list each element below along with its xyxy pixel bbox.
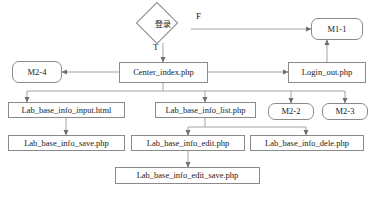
node-info-input-label: Lab_base_info_input.html	[22, 106, 112, 115]
node-m2-2[interactable]: M2-2	[268, 103, 314, 120]
node-info-edit-save[interactable]: Lab_base_info_edit_save.php	[115, 167, 260, 184]
node-m2-2-label: M2-2	[282, 107, 301, 116]
node-info-edit-label: Lab_base_info_edit.php	[147, 139, 229, 148]
login-decision-label: 登录	[142, 8, 184, 38]
node-m2-4[interactable]: M2-4	[12, 61, 62, 83]
node-m1-1[interactable]: M1-1	[311, 18, 363, 40]
edge-label-true: T	[153, 42, 159, 52]
node-info-save-label: Lab_base_info_save.php	[24, 139, 109, 148]
node-m2-3-label: M2-3	[336, 107, 355, 116]
node-m2-3[interactable]: M2-3	[322, 103, 368, 120]
node-m1-1-label: M1-1	[328, 25, 347, 34]
flowchart-canvas: 登录 F T M1-1 M2-4 Center_index.php Login_…	[0, 0, 373, 199]
node-info-dele[interactable]: Lab_base_info_dele.php	[250, 135, 364, 151]
node-info-list[interactable]: Lab_base_info_list.php	[155, 102, 256, 118]
node-m2-4-label: M2-4	[28, 68, 47, 77]
node-info-dele-label: Lab_base_info_dele.php	[265, 139, 349, 148]
node-center-index[interactable]: Center_index.php	[119, 62, 208, 83]
node-info-edit[interactable]: Lab_base_info_edit.php	[131, 135, 245, 151]
node-login-out-label: Login_out.php	[302, 68, 352, 77]
node-info-list-label: Lab_base_info_list.php	[165, 106, 245, 115]
node-center-index-label: Center_index.php	[133, 68, 194, 77]
node-info-edit-save-label: Lab_base_info_edit_save.php	[137, 171, 239, 180]
edge-label-false: F	[196, 11, 201, 21]
node-login-out[interactable]: Login_out.php	[288, 62, 366, 83]
node-info-save[interactable]: Lab_base_info_save.php	[8, 135, 125, 151]
node-info-input[interactable]: Lab_base_info_input.html	[8, 102, 125, 118]
